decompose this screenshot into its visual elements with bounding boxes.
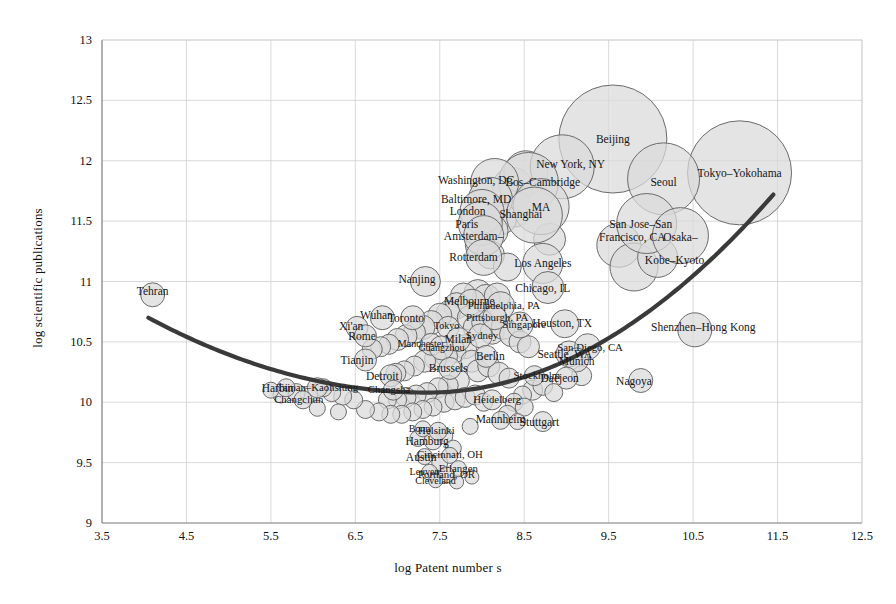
x-axis-title: log Patent number s — [0, 560, 896, 576]
y-tick-label: 9 — [36, 516, 92, 531]
x-tick-label: 4.5 — [179, 529, 195, 544]
x-tick-label: 6.5 — [348, 529, 364, 544]
x-tick-label: 8.5 — [516, 529, 532, 544]
x-tick-label: 10.5 — [682, 529, 704, 544]
x-tick-label: 5.5 — [263, 529, 279, 544]
y-tick-label: 13 — [36, 33, 92, 48]
plot-canvas — [0, 0, 896, 604]
bubble-chart: 3.54.55.56.57.58.59.510.511.512.599.5101… — [0, 0, 896, 604]
y-tick-label: 12.5 — [36, 93, 92, 108]
x-tick-label: 3.5 — [94, 529, 110, 544]
y-tick-label: 9.5 — [36, 455, 92, 470]
x-tick-label: 11.5 — [767, 529, 788, 544]
x-tick-label: 12.5 — [851, 529, 873, 544]
x-tick-label: 7.5 — [432, 529, 448, 544]
y-axis-title: log scientific publications — [30, 148, 46, 408]
x-tick-label: 9.5 — [601, 529, 617, 544]
